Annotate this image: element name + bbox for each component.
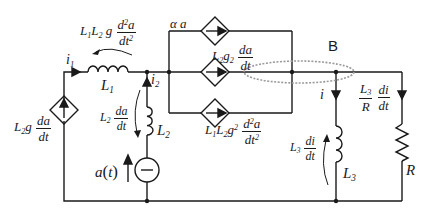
inductor-L3 [336,126,342,162]
inductor-label-L2: L2 [157,123,170,140]
source-bottom-label: L1L2g2 d2adt2 [205,117,262,146]
voltage-source-label: a(t) [95,163,118,180]
inductor-label-L1: L1 [101,78,114,95]
wire-left-top [64,72,88,100]
current-arrow-i [332,91,340,99]
current-arrow-i2 [143,78,151,86]
current-label-i1: i1 [66,53,74,68]
resistor-label-R: R [406,163,415,178]
inductor-L2 [147,107,153,135]
current-arrow-R [398,91,406,99]
inductor-label-L3: L3 [343,166,356,183]
L3-voltage-label: L3 didt [290,135,317,162]
node-label-B: B [328,38,338,53]
voltage-arrow-L2 [135,90,140,133]
L1-voltage-label: L1L2 g d2adt2 [80,18,137,47]
current-arrow-i1 [72,68,80,76]
voltage-arrow-L1 [96,49,132,55]
L2-voltage-label: L2 dadt [100,105,129,132]
current-label-i: i [320,88,324,102]
left-source-label: L2g dadt [14,114,52,143]
circuit-diagram: B i1 i2 i L1 L2 L3 R a(t) L1L2 g d2adt2 … [0,0,431,216]
inductor-L1 [88,66,128,72]
R-current-label: L3R didt [358,82,391,113]
resistor-R [396,124,408,161]
current-label-i2: i2 [151,73,159,88]
voltage-arrow-L3 [323,140,328,185]
source-mid-label: L2g2 dadt [212,43,254,72]
source-top-label: α a [170,17,187,30]
